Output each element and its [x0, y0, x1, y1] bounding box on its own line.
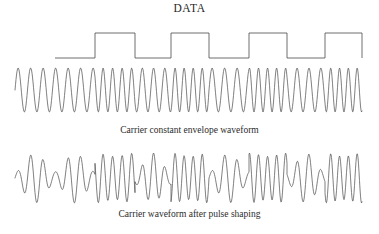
caption-carrier-after-pulse-shaping: Carrier waveform after pulse shaping	[0, 209, 379, 219]
waveform-canvas	[0, 0, 379, 234]
carrier-pulse-shaped-wave	[15, 153, 362, 203]
carrier-constant-envelope-wave	[15, 68, 362, 112]
caption-carrier-constant-envelope: Carrier constant envelope waveform	[0, 125, 379, 135]
data-square-wave	[55, 33, 362, 58]
figure-container: DATA Carrier constant envelope waveform …	[0, 0, 379, 234]
